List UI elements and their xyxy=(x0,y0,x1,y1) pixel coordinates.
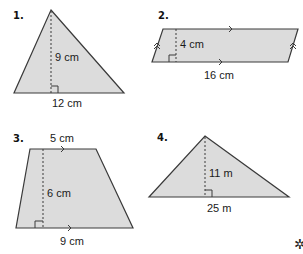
figure-2-base-label: 16 cm xyxy=(204,69,234,81)
figure-3: 3. 5 cm 6 cm 9 cm xyxy=(13,132,133,247)
figure-4-number: 4. xyxy=(157,132,168,143)
figure-2-number: 2. xyxy=(158,10,169,21)
figure-3-base-label: 9 cm xyxy=(60,235,84,247)
figure-3-number: 3. xyxy=(13,133,24,144)
figure-4: 4. 11 m 25 m xyxy=(149,132,289,214)
figure-1: 1. 9 cm 12 cm xyxy=(13,10,124,109)
figure-1-height-label: 9 cm xyxy=(55,51,79,63)
figure-2-height-label: 4 cm xyxy=(180,38,204,50)
corner-mark-icon: ✲ xyxy=(294,236,303,252)
figure-2-parallelogram xyxy=(152,29,298,62)
figure-4-height-label: 11 m xyxy=(209,167,233,179)
figure-1-base-label: 12 cm xyxy=(52,97,82,109)
figure-3-top-label: 5 cm xyxy=(50,132,74,144)
figure-3-height-label: 6 cm xyxy=(47,187,71,199)
figure-1-number: 1. xyxy=(13,10,24,21)
figure-2: 2. 4 cm 16 cm xyxy=(152,10,298,81)
figure-3-trapezoid xyxy=(16,149,133,228)
figure-sheet: 1. 9 cm 12 cm 2. 4 cm 16 cm 3. 5 cm 6 cm… xyxy=(0,0,303,254)
figure-4-base-label: 25 m xyxy=(207,202,231,214)
